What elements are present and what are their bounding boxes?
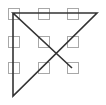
grid-box-7: [9, 63, 20, 74]
diagram-canvas: [0, 0, 106, 105]
grid-box-2: [39, 9, 50, 20]
grid-box-4: [9, 37, 20, 48]
nine-dots-diagram: [0, 0, 106, 105]
grid-box-8: [39, 63, 50, 74]
grid-box-3: [68, 9, 79, 20]
solution-path-line: [13, 13, 97, 96]
grid-box-6: [68, 37, 79, 48]
grid-box-9: [68, 63, 79, 74]
